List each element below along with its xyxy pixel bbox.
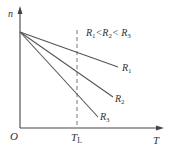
cond-r: R [85, 27, 92, 38]
x-axis-arrow-icon [156, 126, 164, 131]
r3-sub: 3 [106, 116, 110, 124]
line-r3 [20, 32, 98, 117]
r2-label: R2 [114, 93, 125, 106]
r3-label: R3 [99, 111, 110, 124]
r3-main: R [99, 111, 106, 122]
cond-r2: <R [96, 27, 109, 38]
y-axis-label: n [8, 8, 13, 19]
r2-main: R [114, 93, 121, 104]
cond-r3: < R [112, 27, 127, 38]
tl-label-sub: L [77, 136, 82, 145]
r1-label: R1 [121, 62, 132, 75]
cond-sub3: 3 [127, 32, 131, 40]
condition-annotation: R1<R2< R3 [85, 27, 131, 40]
r1-main: R [121, 62, 128, 73]
origin-label: O [10, 130, 18, 142]
tl-label: TL [71, 131, 82, 145]
n-vs-t-diagram: n O T TL R1<R2< R3 R1 R2 R3 [0, 0, 170, 150]
y-axis-arrow-icon [18, 6, 23, 14]
r1-sub: 1 [128, 67, 132, 75]
line-r2 [20, 32, 113, 97]
x-axis-label: T [153, 134, 160, 146]
r2-sub: 2 [121, 98, 125, 106]
